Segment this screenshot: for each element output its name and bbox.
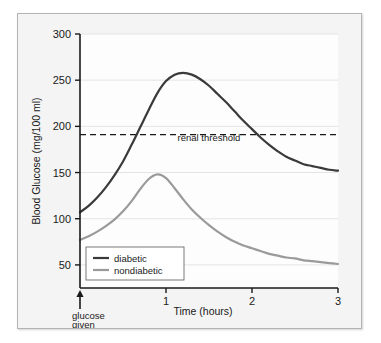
figure-root: renal threshold 50100150200250300 123 Bl… <box>0 0 381 343</box>
chart-legend[interactable]: diabetic nondiabetic <box>86 247 184 280</box>
chart-panel: renal threshold 50100150200250300 123 Bl… <box>17 13 362 329</box>
y-tick-label: 300 <box>53 28 71 40</box>
y-tick-label: 200 <box>53 120 71 132</box>
y-axis-ticks: 50100150200250300 <box>53 28 80 271</box>
x-tick-label: 3 <box>335 295 341 307</box>
x-axis-title: Time (hours) <box>173 305 232 317</box>
renal-threshold-label: renal threshold <box>178 132 241 143</box>
x-tick-label: 2 <box>249 295 255 307</box>
y-tick-label: 250 <box>53 74 71 86</box>
legend-label-diabetic: diabetic <box>114 253 147 264</box>
blood-glucose-line-chart: renal threshold 50100150200250300 123 Bl… <box>18 14 361 328</box>
glucose-given-arrow <box>76 290 83 309</box>
x-tick-label: 1 <box>163 295 169 307</box>
y-axis-title: Blood Glucose (mg/100 ml) <box>30 97 42 224</box>
y-tick-label: 100 <box>53 213 71 225</box>
y-tick-label: 50 <box>59 259 71 271</box>
legend-label-nondiabetic: nondiabetic <box>114 265 163 276</box>
glucose-given-label-line2: given <box>72 319 95 328</box>
y-tick-label: 150 <box>53 167 71 179</box>
